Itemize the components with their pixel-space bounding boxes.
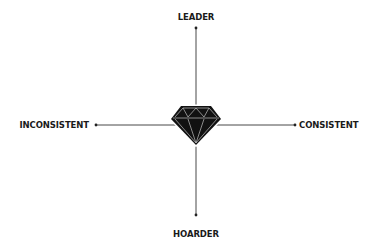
axis-label-right: CONSISTENT	[299, 121, 359, 130]
diamond-icon	[171, 106, 221, 145]
axis-label-top: LEADER	[178, 13, 215, 22]
axis-label-bottom: HOARDER	[173, 230, 219, 239]
quadrant-diagram: LEADER HOARDER INCONSISTENT CONSISTENT	[0, 0, 376, 250]
axis-label-left: INCONSISTENT	[19, 121, 89, 130]
axis-endpoint-left	[95, 124, 98, 127]
axis-endpoint-bottom	[195, 214, 198, 217]
axis-endpoint-top	[195, 27, 198, 30]
axis-endpoint-right	[294, 124, 297, 127]
